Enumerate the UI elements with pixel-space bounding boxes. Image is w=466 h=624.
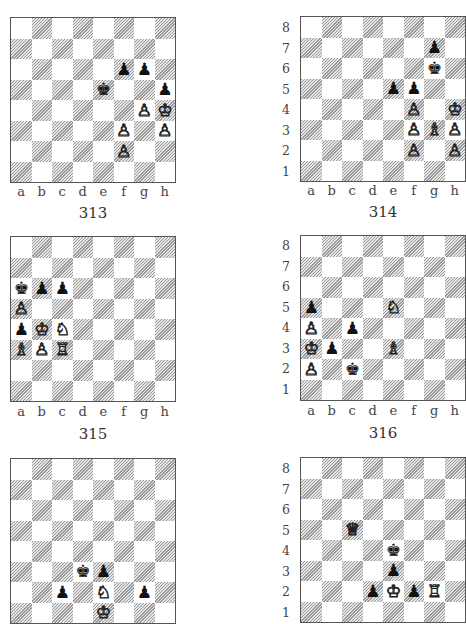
file-labels: abcdefgh bbox=[11, 404, 175, 419]
white-king-icon: ♔ bbox=[386, 583, 401, 600]
white-bishop-icon: ♗ bbox=[14, 341, 29, 358]
square-g6 bbox=[424, 499, 445, 520]
square-e1 bbox=[93, 381, 114, 402]
square-b7 bbox=[322, 38, 343, 59]
white-bishop-icon: ♗ bbox=[427, 121, 442, 138]
square-f5 bbox=[114, 299, 135, 320]
rank-label: 2 bbox=[279, 582, 293, 603]
square-e2 bbox=[93, 360, 114, 381]
black-pawn-icon: ♟ bbox=[137, 584, 152, 601]
rank-label: 7 bbox=[279, 39, 293, 60]
square-f4 bbox=[114, 541, 135, 562]
square-f2 bbox=[114, 582, 135, 603]
square-f3 bbox=[114, 340, 135, 361]
square-c1 bbox=[52, 603, 73, 624]
rank-label: 3 bbox=[279, 121, 293, 142]
square-a8 bbox=[11, 237, 32, 258]
square-f6 bbox=[114, 278, 135, 299]
square-c3: ♖ bbox=[52, 340, 73, 361]
square-e7 bbox=[93, 480, 114, 501]
square-h1 bbox=[445, 602, 466, 623]
square-g6 bbox=[424, 277, 445, 298]
square-f6 bbox=[114, 500, 135, 521]
square-c5: ♕ bbox=[342, 520, 363, 541]
white-king-icon: ♔ bbox=[96, 604, 111, 621]
square-e5 bbox=[383, 520, 404, 541]
square-e8 bbox=[93, 18, 114, 39]
square-c7 bbox=[52, 39, 73, 60]
rank-label: 8 bbox=[279, 459, 293, 480]
square-b6: ♟ bbox=[32, 278, 53, 299]
square-f2 bbox=[404, 359, 425, 380]
rank-labels: 87654321 bbox=[279, 236, 293, 400]
black-king-icon: ♚ bbox=[75, 563, 90, 580]
square-f2: ♙ bbox=[404, 140, 425, 161]
square-f3: ♙ bbox=[404, 120, 425, 141]
square-a1 bbox=[301, 602, 322, 623]
white-pawn-icon: ♙ bbox=[406, 101, 421, 118]
square-f5 bbox=[114, 80, 135, 101]
square-g5 bbox=[134, 80, 155, 101]
square-e5 bbox=[93, 521, 114, 542]
white-rook-icon: ♖ bbox=[55, 341, 70, 358]
rank-label: 4 bbox=[279, 100, 293, 121]
file-label: c bbox=[342, 403, 363, 418]
square-d8 bbox=[363, 17, 384, 38]
square-a6 bbox=[11, 59, 32, 80]
square-f4 bbox=[114, 319, 135, 340]
square-h3: ♙ bbox=[445, 120, 466, 141]
square-g2 bbox=[424, 359, 445, 380]
square-e5: ♘ bbox=[383, 298, 404, 319]
square-c7 bbox=[342, 479, 363, 500]
square-e7 bbox=[383, 38, 404, 59]
square-c6 bbox=[342, 58, 363, 79]
square-b5 bbox=[32, 299, 53, 320]
square-a6: ♚ bbox=[11, 278, 32, 299]
square-c2 bbox=[342, 581, 363, 602]
square-c6 bbox=[342, 277, 363, 298]
rank-label: 1 bbox=[279, 603, 293, 624]
chessboard: ♚♟♟♘♟♔ bbox=[10, 458, 176, 624]
chessboard: ♟♚♟♟♙♔♙♗♙♙♙ bbox=[300, 16, 466, 182]
square-a8 bbox=[11, 459, 32, 480]
square-g1 bbox=[424, 380, 445, 401]
file-label: f bbox=[114, 184, 135, 199]
square-c3 bbox=[52, 562, 73, 583]
square-g6 bbox=[134, 278, 155, 299]
square-c2 bbox=[52, 360, 73, 381]
diagram-number: 316 bbox=[301, 424, 465, 442]
square-b7 bbox=[32, 480, 53, 501]
square-a2 bbox=[301, 581, 322, 602]
black-king-icon: ♚ bbox=[427, 60, 442, 77]
square-g1 bbox=[424, 161, 445, 182]
rank-label: 5 bbox=[279, 521, 293, 542]
square-c1 bbox=[342, 380, 363, 401]
square-e1: ♔ bbox=[93, 603, 114, 624]
square-g8 bbox=[134, 459, 155, 480]
square-e7 bbox=[383, 479, 404, 500]
square-d2 bbox=[73, 141, 94, 162]
square-f8 bbox=[114, 237, 135, 258]
square-b1 bbox=[32, 162, 53, 183]
square-d3 bbox=[363, 561, 384, 582]
chessboard: ♟♘♙♟♔♟♗♙♚ bbox=[300, 235, 466, 401]
square-b2 bbox=[322, 140, 343, 161]
square-f3: ♙ bbox=[114, 121, 135, 142]
square-f1 bbox=[114, 603, 135, 624]
file-label: d bbox=[363, 403, 384, 418]
white-pawn-icon: ♙ bbox=[34, 341, 49, 358]
square-d4 bbox=[73, 319, 94, 340]
square-g3 bbox=[134, 121, 155, 142]
rank-label: 5 bbox=[279, 298, 293, 319]
white-pawn-icon: ♙ bbox=[137, 102, 152, 119]
square-c2 bbox=[342, 140, 363, 161]
rank-label: 6 bbox=[279, 277, 293, 298]
square-f4: ♙ bbox=[404, 99, 425, 120]
diagram-number: 313 bbox=[11, 204, 175, 222]
square-e3 bbox=[93, 340, 114, 361]
file-label: d bbox=[363, 183, 384, 198]
black-king-icon: ♚ bbox=[96, 81, 111, 98]
square-c6 bbox=[342, 499, 363, 520]
square-f2: ♟ bbox=[404, 581, 425, 602]
square-e4 bbox=[383, 99, 404, 120]
